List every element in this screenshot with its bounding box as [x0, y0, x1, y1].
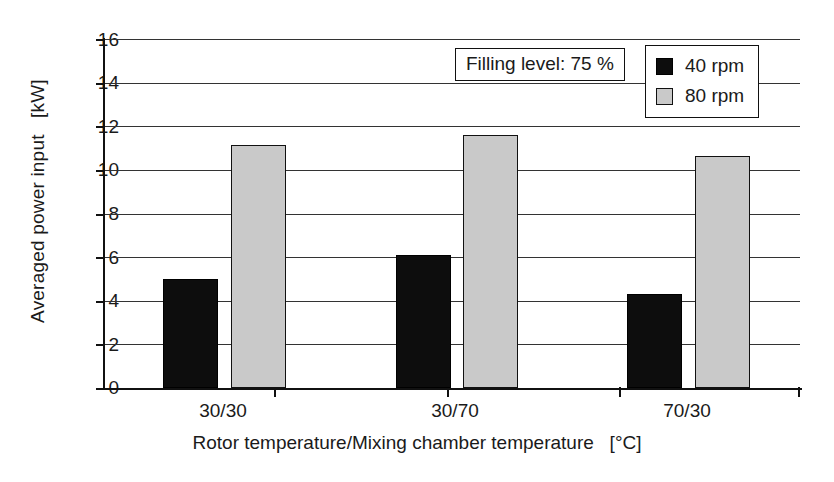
x-tick-label-30-30: 30/30	[143, 400, 303, 422]
x-tick-3	[619, 387, 621, 397]
y-axis-title: Averaged power input [kW]	[27, 21, 49, 381]
legend-label-80rpm: 80 rpm	[685, 85, 744, 107]
chart-legend: 40 rpm 80 rpm	[645, 45, 759, 118]
x-tick-label-30-70: 30/70	[375, 400, 535, 422]
y-tick-6	[96, 257, 105, 259]
legend-item-40rpm: 40 rpm	[656, 51, 744, 81]
y-tick-14	[96, 83, 105, 85]
y-tick-12	[96, 126, 105, 128]
filling-level-annotation: Filling level: 75 %	[455, 48, 625, 81]
x-axis-line	[102, 388, 802, 390]
bar-40rpm-30-70	[396, 255, 451, 388]
x-tick-1	[274, 387, 276, 397]
bar-80rpm-70-30	[695, 156, 750, 388]
bar-80rpm-30-30	[231, 145, 286, 388]
bar-40rpm-70-30	[627, 294, 682, 388]
gridline-12	[103, 126, 800, 127]
y-tick-0	[96, 388, 105, 390]
legend-swatch-40rpm	[656, 58, 673, 75]
gridline-16	[103, 39, 800, 40]
bar-chart-figure: Averaged power input [kW] 16 14 12 10 8 …	[0, 0, 834, 482]
y-tick-8	[96, 214, 105, 216]
legend-label-40rpm: 40 rpm	[685, 55, 744, 77]
x-tick-2	[447, 387, 449, 397]
bar-80rpm-30-70	[463, 135, 518, 388]
legend-swatch-80rpm	[656, 88, 673, 105]
bar-40rpm-30-30	[163, 279, 218, 388]
x-tick-4	[798, 387, 800, 397]
y-tick-16	[96, 39, 105, 41]
y-tick-4	[96, 301, 105, 303]
legend-item-80rpm: 80 rpm	[656, 81, 744, 111]
y-tick-10	[96, 170, 105, 172]
y-tick-2	[96, 344, 105, 346]
x-tick-label-70-30: 70/30	[607, 400, 767, 422]
x-axis-title: Rotor temperature/Mixing chamber tempera…	[0, 432, 834, 454]
